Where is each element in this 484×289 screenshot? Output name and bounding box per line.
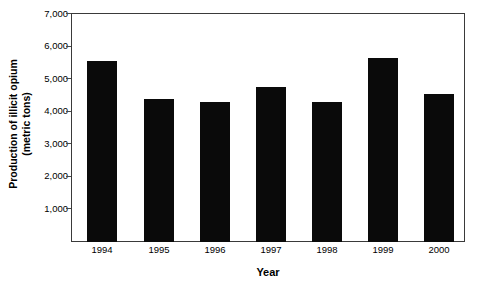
bar-1995 bbox=[144, 99, 174, 242]
x-tick-label-1997: 1997 bbox=[246, 244, 296, 256]
bar-1997 bbox=[256, 87, 286, 242]
x-axis-tick-labels: 1994 1995 1996 1997 1998 1999 2000 bbox=[71, 244, 465, 260]
bar-chart-figure: Production of illicit opium (metric tons… bbox=[0, 0, 484, 289]
y-tick-label: 2,000 bbox=[22, 171, 68, 181]
bars-layer bbox=[71, 13, 465, 242]
y-tick-label: 6,000 bbox=[22, 41, 68, 51]
bar-2000 bbox=[424, 94, 454, 242]
y-tick-label: 1,000 bbox=[22, 204, 68, 214]
y-tick-label: 4,000 bbox=[22, 106, 68, 116]
x-tick-label-1998: 1998 bbox=[302, 244, 352, 256]
x-tick-label-2000: 2000 bbox=[414, 244, 464, 256]
y-tick-label: 7,000 bbox=[22, 9, 68, 19]
x-tick-label-1995: 1995 bbox=[134, 244, 184, 256]
bar-1998 bbox=[312, 102, 342, 242]
y-axis-title-line-1: Production of illicit opium bbox=[7, 59, 20, 189]
bar-1996 bbox=[200, 102, 230, 242]
y-tick-label: 5,000 bbox=[22, 74, 68, 84]
x-tick-label-1999: 1999 bbox=[358, 244, 408, 256]
x-axis-title: Year bbox=[71, 266, 465, 278]
y-axis-tick-labels: 7,000 6,000 5,000 4,000 3,000 2,000 1,00… bbox=[20, 0, 68, 289]
x-tick-label-1994: 1994 bbox=[77, 244, 127, 256]
x-tick-label-1996: 1996 bbox=[190, 244, 240, 256]
bar-1999 bbox=[368, 58, 398, 242]
bar-1994 bbox=[87, 61, 117, 242]
y-tick-label: 3,000 bbox=[22, 139, 68, 149]
